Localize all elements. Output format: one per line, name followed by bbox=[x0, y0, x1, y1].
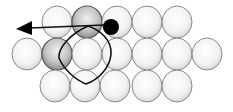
atom bbox=[162, 6, 192, 38]
atom bbox=[132, 6, 162, 38]
atom bbox=[162, 70, 192, 102]
adatom bbox=[103, 19, 119, 35]
atom-diffusion-diagram bbox=[0, 0, 233, 112]
arrowhead-icon bbox=[16, 21, 32, 35]
atom bbox=[132, 70, 162, 102]
atom-shaded bbox=[42, 38, 72, 70]
atom bbox=[162, 38, 192, 70]
atom bbox=[192, 38, 222, 70]
atom bbox=[102, 38, 132, 70]
atom bbox=[100, 70, 130, 102]
atom bbox=[12, 38, 42, 70]
atom-lattice bbox=[12, 6, 222, 102]
atom bbox=[40, 70, 70, 102]
atom bbox=[72, 38, 102, 70]
atom bbox=[132, 38, 162, 70]
atom bbox=[42, 6, 72, 38]
atom bbox=[70, 70, 100, 102]
